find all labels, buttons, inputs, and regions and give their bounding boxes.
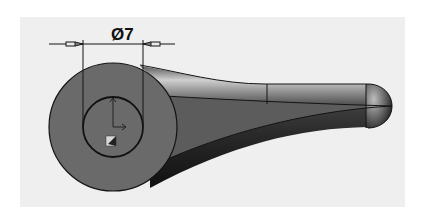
diameter-dimension-label[interactable]: Ø7 [111, 25, 134, 45]
view-orientation-icon [106, 136, 116, 146]
cad-viewport [0, 0, 421, 218]
